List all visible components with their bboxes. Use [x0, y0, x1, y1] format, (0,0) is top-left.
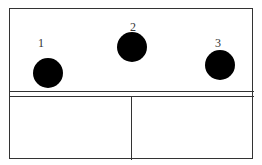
- ball-1: [33, 58, 63, 88]
- shelf-line-top: [9, 91, 254, 92]
- ball-1-label: 1: [38, 37, 44, 49]
- bottom-divider: [131, 96, 132, 160]
- ball-3: [205, 50, 235, 80]
- ball-2-label: 2: [130, 21, 136, 33]
- ball-3-label: 3: [215, 37, 221, 49]
- ball-2: [117, 32, 147, 62]
